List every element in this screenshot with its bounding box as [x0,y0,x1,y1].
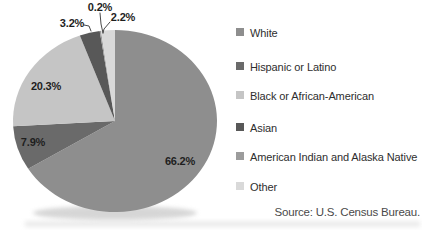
legend-swatch-icon [236,28,244,36]
pie [13,30,217,212]
legend-item-label: Hispanic or Latino [250,61,418,74]
legend-item-asian: Asian [236,122,418,135]
legend-item-hispanic-or-latino: Hispanic or Latino [236,61,418,74]
legend-item-black-or-african-american: Black or African-American [236,90,418,103]
legend-item-other: Other [236,181,418,194]
data-label-hispanic-or-latino: 7.9% [21,136,45,148]
data-label-white: 66.2% [165,155,195,167]
legend-item-label: Other [250,181,418,194]
legend-swatch-icon [236,182,244,190]
legend: WhiteHispanic or LatinoBlack or African-… [236,0,416,231]
legend-swatch-icon [236,152,244,160]
legend-item-american-indian-and-alaska-native: American Indian and Alaska Native [236,151,418,164]
data-label-black-or-african-american: 20.3% [31,80,61,92]
leader-lines [84,13,110,33]
data-label-asian: 3.2% [60,17,84,29]
legend-item-white: White [236,27,418,40]
legend-item-label: American Indian and Alaska Native [250,151,418,164]
legend-item-label: Black or African-American [250,90,418,103]
source-note: Source: U.S. Census Bureau. [275,206,420,218]
legend-item-label: White [250,27,418,40]
leader-line-american-indian-and-alaska-native [100,13,103,33]
legend-swatch-icon [236,91,244,99]
data-label-american-indian-and-alaska-native: 0.2% [88,1,112,13]
legend-item-label: Asian [250,122,418,135]
legend-swatch-icon [236,62,244,70]
legend-swatch-icon [236,123,244,131]
leader-line-asian [84,25,91,31]
chart-area: 66.2%7.9%20.3%3.2%0.2%2.2% WhiteHispanic… [0,0,422,231]
data-label-other: 2.2% [111,11,135,23]
